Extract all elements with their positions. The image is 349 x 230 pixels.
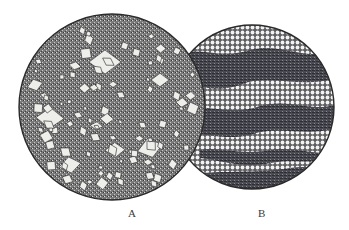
panel-b-label: B (258, 208, 265, 219)
microscope-views-illustration (0, 0, 349, 230)
panel-a-view (19, 14, 205, 200)
panel-a-label: A (128, 208, 136, 219)
figure: A B (0, 0, 349, 230)
